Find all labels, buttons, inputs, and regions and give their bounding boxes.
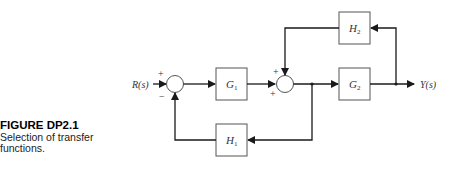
sum2-top-plus-sign: + [273, 66, 279, 77]
input-label: R(s) [131, 79, 149, 91]
summing-junction-1 [167, 76, 184, 93]
h1-feedback-in-line [248, 84, 312, 140]
h2-feedback-out-line [285, 28, 339, 75]
figure-description: Selection of transfer functions. [0, 132, 95, 154]
h1-feedback-out-line [175, 93, 216, 140]
sum2-left-plus-sign: + [270, 88, 276, 99]
figure-caption: FIGURE DP2.1 Selection of transfer funct… [0, 119, 95, 154]
sum1-plus-sign: + [158, 68, 164, 79]
summing-junction-2 [277, 76, 294, 93]
sum1-minus-sign: − [159, 91, 165, 102]
h2-feedback-in-line [371, 28, 396, 84]
output-label: Y(s) [420, 79, 437, 91]
